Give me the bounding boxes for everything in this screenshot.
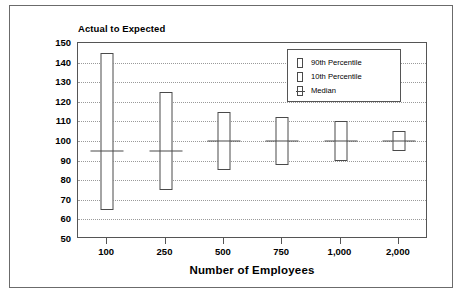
x-axis-tick	[165, 238, 166, 244]
x-axis-tick	[281, 238, 282, 244]
gridline	[78, 161, 426, 162]
median-line	[382, 141, 415, 142]
median-line	[266, 141, 299, 142]
legend-item-label: 90th Percentile	[311, 58, 362, 67]
legend-item[interactable]: Median	[297, 84, 336, 97]
y-axis-labels: 1501401301201101009080706050	[37, 42, 71, 238]
legend-item-label: 10th Percentile	[311, 72, 362, 81]
median-line	[149, 150, 182, 151]
legend-item[interactable]: 10th Percentile	[297, 70, 362, 83]
median-line	[207, 141, 240, 142]
gridline	[78, 141, 426, 142]
box-median-marker-icon	[297, 86, 303, 96]
chart-legend: 90th Percentile10th PercentileMedian	[287, 49, 401, 102]
median-line	[324, 141, 357, 142]
x-axis-tick-label: 1,000	[310, 246, 370, 257]
box-marker-icon	[297, 58, 303, 68]
range-box	[159, 92, 172, 190]
y-axis-tick-label: 100	[41, 135, 71, 146]
y-axis-tick-label: 50	[41, 233, 71, 244]
chart-page: Actual to Expected 150140130120110100908…	[0, 0, 463, 300]
figure-frame: Actual to Expected 150140130120110100908…	[9, 5, 453, 288]
x-axis-tick-label: 500	[193, 246, 253, 257]
x-axis-tick-label: 750	[251, 246, 311, 257]
y-axis-tick-label: 120	[41, 95, 71, 106]
legend-item-label: Median	[311, 86, 336, 95]
gridline	[78, 121, 426, 122]
x-axis-tick-label: 100	[76, 246, 136, 257]
x-axis-tick	[340, 238, 341, 244]
y-axis-tick-label: 150	[41, 37, 71, 48]
x-axis-tick	[398, 238, 399, 244]
gridline	[78, 180, 426, 181]
x-axis-tick-label: 2,000	[368, 246, 428, 257]
gridline	[78, 219, 426, 220]
x-axis-tick	[223, 238, 224, 244]
x-axis-title: Number of Employees	[77, 264, 427, 276]
x-axis-tick-label: 250	[135, 246, 195, 257]
x-axis-labels: 1002505007501,0002,000	[77, 246, 427, 260]
range-box	[101, 53, 114, 210]
y-axis-tick-label: 80	[41, 174, 71, 185]
box-marker-icon	[297, 72, 303, 82]
y-axis-tick-label: 90	[41, 154, 71, 165]
x-axis-ticks	[77, 238, 427, 245]
gridline	[78, 200, 426, 201]
y-axis-tick-label: 70	[41, 193, 71, 204]
chart-title: Actual to Expected	[78, 23, 165, 34]
y-axis-tick-label: 60	[41, 213, 71, 224]
y-axis-tick-label: 140	[41, 56, 71, 67]
x-axis-tick	[106, 238, 107, 244]
y-axis-tick-label: 110	[41, 115, 71, 126]
y-axis-tick-label: 130	[41, 76, 71, 87]
legend-item[interactable]: 90th Percentile	[297, 56, 362, 69]
median-line	[91, 150, 124, 151]
